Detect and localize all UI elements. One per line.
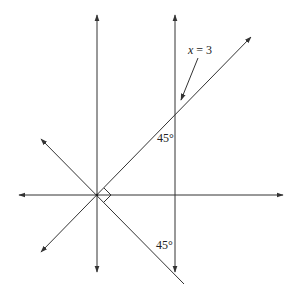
line-label: x = 3 xyxy=(187,43,212,57)
origin-point xyxy=(96,194,99,197)
angle-label-top: 45° xyxy=(157,131,174,145)
geometry-diagram: x = 3 45° 45° xyxy=(0,0,294,298)
angle-label-bottom: 45° xyxy=(156,238,173,252)
diagonal-line-ascending xyxy=(41,37,251,252)
diagonal-line-descending xyxy=(41,139,184,284)
line-label-equation: = 3 xyxy=(193,43,212,57)
